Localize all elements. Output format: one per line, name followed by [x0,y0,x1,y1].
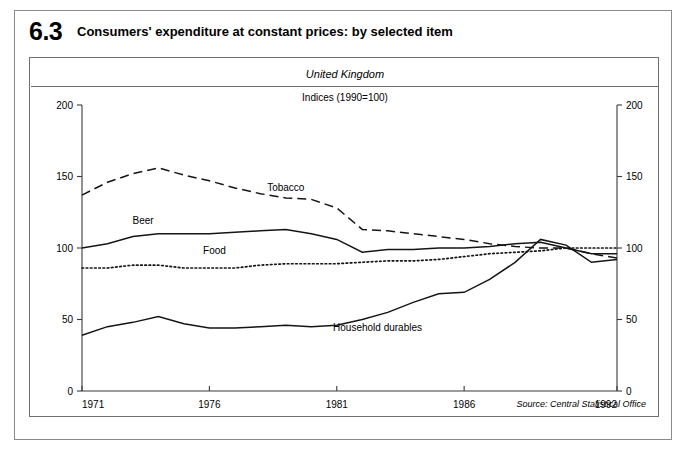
y-tick-label-left: 100 [56,243,73,254]
series-label-household-durables: Household durables [333,322,422,333]
series-label-food: Food [203,245,226,256]
x-tick-label: 1986 [453,399,476,410]
series-label-beer: Beer [133,215,155,226]
y-tick-label-right: 0 [626,386,632,397]
y-tick-label-right: 150 [626,171,643,182]
chart-ticks: 0050501001001501502002001971197619811986… [56,100,643,411]
line-chart: 0050501001001501502002001971197619811986… [30,58,660,418]
series-line-food [82,248,617,268]
y-tick-label-left: 200 [56,100,73,111]
figure-page: 6.3 Consumers' expenditure at constant p… [0,0,688,452]
y-tick-label-left: 50 [62,314,74,325]
series-line-beer [82,229,617,253]
chart-axes [82,105,617,391]
y-tick-label-left: 150 [56,171,73,182]
y-tick-label-right: 100 [626,243,643,254]
series-line-household-durables [82,239,617,335]
x-tick-label: 1971 [82,399,105,410]
figure-title: Consumers' expenditure at constant price… [77,23,453,40]
chart-series [82,168,617,335]
chart-annotations: TobaccoBeerFoodHousehold durables [133,182,422,333]
figure-card: 6.3 Consumers' expenditure at constant p… [14,10,672,440]
x-tick-label: 1976 [198,399,221,410]
source-note: Source: Central Statistical Office [516,399,646,409]
y-tick-label-left: 0 [67,386,73,397]
figure-number: 6.3 [29,16,62,46]
figure-header: 6.3 Consumers' expenditure at constant p… [15,11,673,57]
series-label-tobacco: Tobacco [267,182,305,193]
chart-panel: United Kingdom Indices (1990=100) 005050… [29,57,659,417]
y-tick-label-right: 50 [626,314,638,325]
series-line-tobacco [82,168,617,258]
y-tick-label-right: 200 [626,100,643,111]
x-tick-label: 1981 [326,399,349,410]
